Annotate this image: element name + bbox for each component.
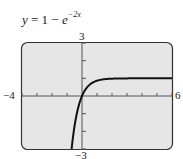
plot-area xyxy=(0,0,183,159)
